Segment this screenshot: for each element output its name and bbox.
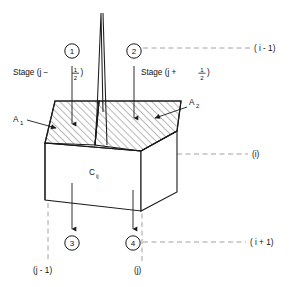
svg-text:Stage (j −: Stage (j − — [13, 68, 48, 77]
cell-diagram-svg: 1 2 3 4 Stage (j − 1 2 ) Stage (j + 1 2 … — [0, 0, 299, 287]
column-index-j-minus-1: (j - 1) — [33, 266, 52, 275]
area-label-a2-sub: 2 — [196, 103, 200, 109]
area-label-a2-base: A — [189, 98, 195, 107]
stage-left-prefix: Stage (j − — [13, 68, 48, 77]
cell-label-base: C — [89, 168, 95, 177]
cell-front-face — [45, 143, 141, 211]
flow-marker-4[interactable]: 4 — [126, 236, 140, 250]
area-label-a1-sub: 1 — [20, 120, 24, 126]
svg-text:Stage (j +: Stage (j + — [141, 68, 176, 77]
area-label-a2: A 2 — [189, 98, 200, 109]
row-index-i-plus-1: ( i + 1) — [250, 238, 274, 247]
stage-left-denominator: 2 — [74, 75, 78, 81]
flow-marker-4-label: 4 — [131, 239, 136, 248]
area-label-a1-base: A — [13, 115, 19, 124]
flow-marker-2-label: 2 — [132, 47, 137, 56]
stage-label-right: Stage (j + 1 2 ) — [141, 67, 210, 81]
cell-label-sub: ij — [96, 173, 99, 179]
column-index-j: (j) — [134, 266, 142, 275]
flow-marker-3[interactable]: 3 — [65, 236, 79, 250]
flow-marker-1[interactable]: 1 — [65, 44, 79, 58]
stage-left-suffix: ) — [81, 68, 84, 77]
stage-right-denominator: 2 — [200, 75, 204, 81]
flow-marker-2[interactable]: 2 — [127, 44, 141, 58]
spike-right-blade — [103, 13, 106, 112]
stage-left-numerator: 1 — [74, 67, 78, 73]
stage-right-suffix: ) — [207, 68, 210, 77]
figure-canvas: 1 2 3 4 Stage (j − 1 2 ) Stage (j + 1 2 … — [0, 0, 299, 287]
stage-label-left: Stage (j − 1 2 ) — [13, 67, 84, 81]
area-label-a1: A 1 — [13, 115, 24, 126]
row-index-i-minus-1: ( i - 1) — [254, 44, 276, 53]
stage-right-numerator: 1 — [200, 67, 204, 73]
row-index-i: (i) — [252, 150, 260, 159]
spike-left-blade — [97, 13, 103, 112]
stage-right-prefix: Stage (j + — [141, 68, 176, 77]
flow-marker-3-label: 3 — [70, 239, 75, 248]
flow-marker-1-label: 1 — [70, 47, 75, 56]
